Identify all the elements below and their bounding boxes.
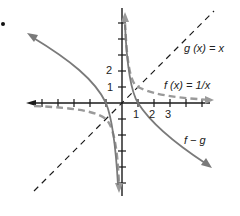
fg-curve-negative [32, 37, 118, 185]
x-tick-label-3: 3 [165, 109, 171, 120]
y-tick-label-1: 1 [107, 82, 113, 93]
function-graph: 1 2 3 1 2 g (x) = x f (x) = 1/x f − g [0, 0, 240, 216]
g-line [34, 11, 214, 191]
f-curve-negative [34, 106, 119, 183]
graph-canvas [0, 0, 240, 216]
x-tick-label-2: 2 [149, 109, 155, 120]
x-axis [26, 100, 210, 106]
g-label: g (x) = x [184, 43, 224, 54]
fg-label: f − g [184, 135, 206, 146]
fg-arrow-right [201, 158, 212, 168]
f-label: f (x) = 1/x [164, 80, 210, 91]
y-tick-label-2: 2 [106, 65, 112, 76]
x-tick-label-1: 1 [133, 109, 139, 120]
